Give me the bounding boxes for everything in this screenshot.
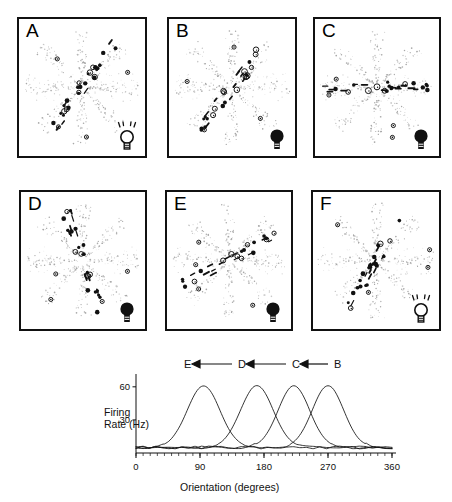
panel-grid: A B C D E F: [0, 0, 452, 352]
y-tick-label: 60: [119, 381, 130, 392]
panel-e: E: [165, 190, 293, 331]
legend-arrows: E D C B: [178, 355, 348, 373]
tuning-curves-svg: 3060090180270360: [0, 352, 452, 502]
tuning-curve-d: [136, 386, 392, 449]
x-tick-label: 180: [256, 461, 272, 472]
lightbulb-off-icon: [408, 120, 434, 152]
x-tick-label: 270: [320, 461, 336, 472]
y-axis-label-line2: Rate (Hz): [104, 418, 164, 430]
y-axis-label-line1: Firing: [104, 406, 164, 418]
lightbulb-off-icon: [264, 120, 290, 152]
panel-a: A: [17, 17, 147, 158]
x-tick-label: 0: [133, 461, 138, 472]
lightbulb-on-icon: [408, 293, 434, 325]
tuning-curve-chart: E D C B 3060090180270360: [0, 352, 452, 502]
tuning-curve-c: [136, 386, 392, 449]
tuning-curve-b: [136, 386, 392, 449]
x-axis-label: Orientation (degrees): [180, 481, 279, 493]
panel-f: F: [311, 190, 441, 331]
panel-b: B: [167, 17, 297, 158]
chart-legend: E D C B: [178, 355, 348, 373]
legend-label-b: B: [334, 358, 341, 370]
figure-root: A B C D E F: [0, 0, 452, 502]
panel-d: D: [19, 190, 147, 331]
x-tick-label: 90: [195, 461, 206, 472]
x-tick-label: 360: [384, 461, 400, 472]
y-axis-label: Firing Rate (Hz): [104, 406, 164, 430]
lightbulb-on-icon: [114, 120, 140, 152]
panel-c: C: [313, 17, 441, 158]
lightbulb-off-icon: [114, 293, 140, 325]
legend-label-e: E: [184, 358, 191, 370]
lightbulb-off-icon: [260, 293, 286, 325]
tuning-curve-e: [136, 386, 392, 449]
